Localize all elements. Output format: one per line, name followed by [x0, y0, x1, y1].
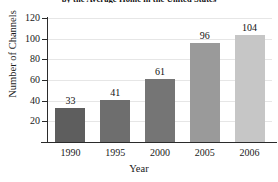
bar[interactable]: [190, 43, 220, 142]
bar-group[interactable]: 41: [100, 18, 130, 142]
y-tick-label: 100: [25, 34, 40, 44]
bar-value-label: 33: [65, 96, 75, 106]
bar-group[interactable]: 61: [145, 18, 175, 142]
y-tick-label: 20: [30, 116, 40, 126]
bar-group[interactable]: 96: [190, 18, 220, 142]
y-tick-label: 120: [25, 13, 40, 23]
y-tick-mark: [42, 39, 48, 40]
bar-value-label: 61: [155, 67, 165, 77]
chart-screenshot: { "chart_data": { "type": "bar", "title"…: [0, 0, 278, 182]
x-tick-label: 2006: [222, 147, 278, 158]
x-axis-title: Year: [0, 163, 278, 175]
y-tick-label: 60: [30, 75, 40, 85]
y-tick-label: 80: [30, 54, 40, 64]
bar[interactable]: [100, 100, 130, 142]
bar-value-label: 96: [200, 31, 210, 41]
bar-value-label: 104: [242, 23, 257, 33]
y-tick-mark: [42, 101, 48, 102]
bar-group[interactable]: 104: [235, 18, 265, 142]
y-tick-mark: [42, 59, 48, 60]
bar-group[interactable]: 33: [55, 18, 85, 142]
y-tick-label: 40: [30, 96, 40, 106]
x-axis-line: [41, 142, 277, 143]
plot-area: 20406080100120 33416196104: [48, 18, 272, 142]
y-tick-mark: [42, 80, 48, 81]
chart-title: by the Average Home in the United States: [0, 0, 278, 3]
y-tick-mark: [42, 121, 48, 122]
y-axis-title: Number of Channels: [7, 0, 19, 114]
bar[interactable]: [235, 35, 265, 142]
bar[interactable]: [145, 79, 175, 142]
y-tick-mark: [42, 18, 48, 19]
bar-value-label: 41: [110, 88, 120, 98]
bar[interactable]: [55, 108, 85, 142]
